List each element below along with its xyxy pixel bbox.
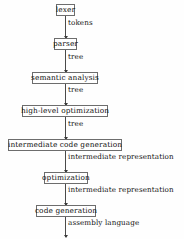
edge-label-tokens: tokens xyxy=(68,19,93,26)
stage-box-code-generation: code generation xyxy=(36,205,96,217)
connector-arrow-tokens xyxy=(65,16,66,38)
stage-label: semantic analysis xyxy=(31,74,99,81)
edge-label-intermediate-representation-1: intermediate representation xyxy=(68,153,174,160)
stage-label: parser xyxy=(53,40,78,47)
connector-arrow-tree-2 xyxy=(65,84,66,105)
connector-arrow-assembly-language xyxy=(65,217,66,237)
stage-label: intermediate code generation xyxy=(8,141,122,148)
stage-box-optimization: optimization xyxy=(44,172,88,184)
edge-label-intermediate-representation-2: intermediate representation xyxy=(68,186,174,193)
stage-box-semantic-analysis: semantic analysis xyxy=(32,72,98,84)
stage-label: high-level optimization xyxy=(21,107,109,114)
stage-label: optimization xyxy=(42,174,90,181)
edge-label-assembly-language: assembly language xyxy=(68,219,139,226)
edge-label-tree-2: tree xyxy=(68,86,83,93)
stage-label: code generation xyxy=(35,207,97,214)
stage-box-lexer: lexer xyxy=(56,4,75,16)
connector-arrow-intermediate-representation-1 xyxy=(65,151,66,172)
edge-label-tree-1: tree xyxy=(68,53,83,60)
stage-box-high-level-optimization: high-level optimization xyxy=(22,105,108,117)
connector-arrow-intermediate-representation-2 xyxy=(65,184,66,205)
edge-label-tree-3: tree xyxy=(68,120,83,127)
connector-arrow-tree-1 xyxy=(65,50,66,72)
stage-box-parser: parser xyxy=(54,38,77,50)
stage-label: lexer xyxy=(56,6,75,13)
connector-arrow-tree-3 xyxy=(65,117,66,139)
stage-box-intermediate-code-generation: intermediate code generation xyxy=(8,139,122,151)
compiler-pipeline-diagram: lexer tokens parser tree semantic analys… xyxy=(0,0,184,239)
